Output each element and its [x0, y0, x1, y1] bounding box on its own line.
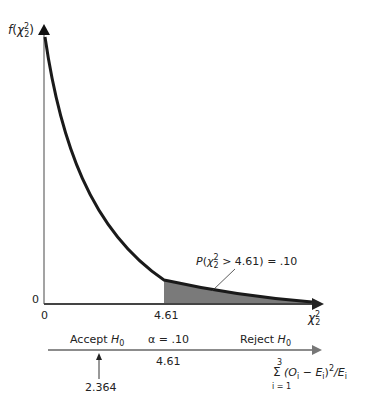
decision-critical-label: 4.61 — [156, 356, 181, 368]
probability-label: P(χ22 > 4.61) = .10 — [196, 256, 297, 268]
sum-lower-limit: i = 1 — [272, 381, 291, 393]
alpha-label: α = .10 — [148, 334, 189, 346]
y-axis-label: f(χ22) — [8, 24, 34, 36]
x-axis-label: χ22 — [308, 312, 320, 324]
critical-x-label: 4.61 — [154, 310, 179, 322]
x-origin-label: 0 — [41, 310, 48, 322]
x-axis-arrow-icon — [312, 298, 324, 310]
test-statistic-label: (Oi − Ei)2/Ei — [284, 367, 347, 379]
accept-label: Accept H0 — [70, 334, 124, 346]
y-axis-arrow-icon — [38, 24, 50, 35]
observed-arrow-icon — [96, 353, 102, 360]
observed-value-label: 2.364 — [85, 382, 117, 394]
reject-label: Reject H0 — [240, 334, 291, 346]
decision-axis-arrow-icon — [312, 345, 322, 355]
probability-leader-line — [212, 269, 235, 291]
y-origin-label: 0 — [32, 294, 39, 306]
sum-symbol: Σ — [273, 366, 281, 378]
